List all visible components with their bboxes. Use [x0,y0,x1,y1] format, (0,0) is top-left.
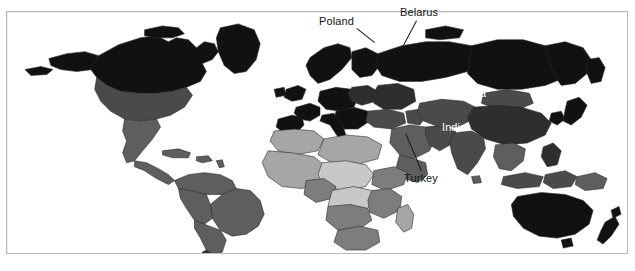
region-greenland [216,24,260,74]
region-scandinavia [306,44,352,84]
region-tasmania [561,238,573,248]
map-label-poland: Poland [319,16,354,27]
region-canada [91,36,219,94]
region-new-zealand [597,216,619,244]
region-indonesia-east [543,171,577,189]
region-kamchatka [587,58,605,84]
region-arctic-islands [426,26,464,40]
region-angola-zambia [326,204,372,230]
region-hispaniola [196,156,212,163]
region-japan [563,97,587,125]
region-new-zealand-north [611,206,621,218]
region-british-isles [284,85,306,101]
region-east-africa [368,189,402,219]
map-label-india: India [442,122,466,133]
region-sri-lanka [472,176,482,184]
region-canada-islands [145,26,185,38]
region-taiwan-philippines [541,143,561,167]
region-cuba [162,149,190,158]
map-label-china: China [457,88,486,99]
region-southern-africa [334,226,380,250]
region-madagascar [396,204,414,232]
region-lesser-antilles [216,160,224,168]
region-ireland [274,87,286,97]
region-brazil [210,189,264,237]
region-aleutians [25,67,53,76]
world-map-svg [7,12,627,253]
region-papua-new-guinea [575,173,607,191]
region-belarus-ukraine [374,83,416,109]
region-horn-of-africa [372,167,408,191]
world-map-figure: Poland Belarus Turkey China India [0,0,635,271]
map-frame: Poland Belarus Turkey China India [6,11,628,254]
region-korea [549,111,565,125]
region-morocco-algeria [270,129,324,155]
region-australia [511,193,593,239]
region-turkey [366,109,406,129]
region-libya-egypt [318,135,382,165]
map-label-belarus: Belarus [400,7,438,18]
region-mexico [123,119,161,163]
map-canvas [7,12,627,253]
region-southeast-asia [493,143,525,171]
region-indonesia-west [501,173,543,189]
region-finland-baltics [352,48,380,78]
region-india [450,131,486,175]
region-central-america [135,161,175,185]
map-label-turkey: Turkey [404,173,438,184]
